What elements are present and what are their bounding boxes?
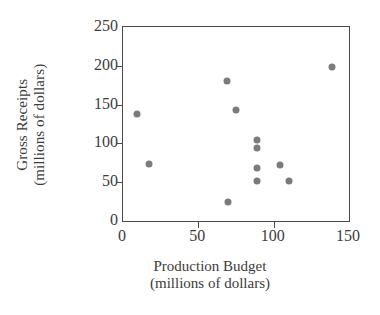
data-point (276, 162, 283, 169)
y-axis-tick (116, 143, 123, 144)
plot-area (122, 26, 350, 222)
y-axis-tick-label: 150 (64, 96, 118, 112)
x-axis-title-line-2: (millions of dollars) (60, 275, 360, 292)
data-point (133, 110, 140, 117)
x-axis-title-line-1: Production Budget (60, 258, 360, 275)
data-points-layer (123, 27, 349, 221)
y-axis-tick-label: 100 (64, 134, 118, 150)
y-axis-title-line-2: (millions of dollars) (31, 64, 48, 186)
y-axis-tick-label: 250 (64, 18, 118, 34)
data-point (254, 137, 261, 144)
data-point (233, 107, 240, 114)
data-point (254, 178, 261, 185)
y-axis-tick (116, 182, 123, 183)
x-axis-tick-label: 0 (118, 228, 126, 244)
x-axis-tick-label: 150 (336, 228, 360, 244)
x-axis-tick-label: 50 (189, 228, 205, 244)
data-point (223, 77, 230, 84)
y-axis-tick (116, 105, 123, 106)
data-point (254, 165, 261, 172)
x-axis-tick-labels: 050100150 (122, 228, 350, 250)
x-axis-tick-label: 100 (261, 228, 285, 244)
y-axis-title-line-1: Gross Receipts (14, 64, 31, 186)
data-point (225, 199, 232, 206)
scatter-plot-figure: Gross Receipts (millions of dollars) 050… (0, 0, 380, 315)
y-axis-tick-label: 0 (64, 212, 118, 228)
x-axis-title: Production Budget (millions of dollars) (60, 258, 360, 293)
data-point (254, 145, 261, 152)
y-axis-tick (116, 66, 123, 67)
y-axis-title: Gross Receipts (millions of dollars) (0, 0, 62, 250)
y-axis-tick-label: 50 (64, 173, 118, 189)
data-point (329, 63, 336, 70)
y-axis-tick-label: 200 (64, 57, 118, 73)
data-point (285, 177, 292, 184)
data-point (145, 160, 152, 167)
